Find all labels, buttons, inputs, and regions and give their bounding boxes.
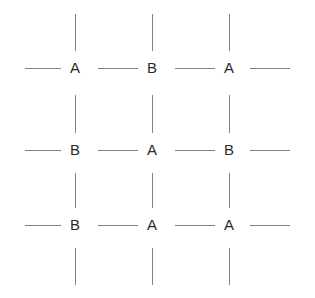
vertical-bond bbox=[152, 173, 153, 208]
horizontal-bond bbox=[250, 68, 290, 69]
horizontal-bond bbox=[175, 68, 215, 69]
lattice-site-label: B bbox=[66, 217, 84, 233]
horizontal-bond bbox=[98, 225, 138, 226]
horizontal-bond bbox=[250, 150, 290, 151]
horizontal-bond bbox=[98, 150, 138, 151]
horizontal-bond bbox=[175, 150, 215, 151]
lattice-site-label: B bbox=[220, 142, 238, 158]
lattice-site-label: A bbox=[66, 60, 84, 76]
vertical-bond bbox=[152, 14, 153, 51]
vertical-bond bbox=[75, 173, 76, 208]
lattice-site-label: B bbox=[143, 60, 161, 76]
vertical-bond bbox=[75, 95, 76, 133]
horizontal-bond bbox=[25, 150, 61, 151]
lattice-site-label: A bbox=[220, 217, 238, 233]
horizontal-bond bbox=[25, 68, 61, 69]
horizontal-bond bbox=[250, 225, 290, 226]
vertical-bond bbox=[229, 173, 230, 208]
vertical-bond bbox=[152, 248, 153, 285]
vertical-bond bbox=[229, 95, 230, 133]
lattice-diagram-canvas: ABABABBAA bbox=[0, 0, 315, 298]
vertical-bond bbox=[229, 248, 230, 285]
vertical-bond bbox=[75, 248, 76, 285]
vertical-bond bbox=[75, 14, 76, 51]
lattice-site-label: A bbox=[220, 60, 238, 76]
vertical-bond bbox=[229, 14, 230, 51]
lattice-site-label: A bbox=[143, 142, 161, 158]
horizontal-bond bbox=[98, 68, 138, 69]
horizontal-bond bbox=[175, 225, 215, 226]
lattice-site-label: A bbox=[143, 217, 161, 233]
vertical-bond bbox=[152, 95, 153, 133]
horizontal-bond bbox=[25, 225, 61, 226]
lattice-site-label: B bbox=[66, 142, 84, 158]
